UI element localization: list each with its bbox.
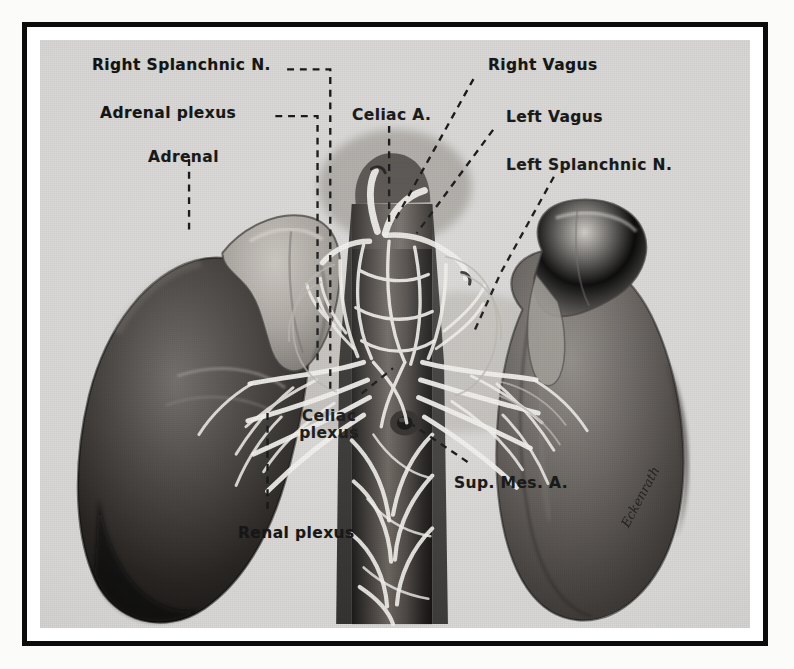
label-left-vagus: Left Vagus — [506, 108, 603, 126]
label-adrenal: Adrenal — [148, 148, 219, 166]
anatomy-artwork: Eckenrath — [40, 40, 750, 628]
label-left-splanchnic-n: Left Splanchnic N. — [506, 156, 672, 174]
plate-mat: Eckenrath — [32, 32, 758, 636]
illustration-art-area: Eckenrath — [40, 40, 750, 628]
label-right-vagus: Right Vagus — [488, 56, 598, 74]
label-celiac-a: Celiac A. — [352, 106, 431, 124]
label-celiac-plexus-line2: plexus — [299, 424, 359, 442]
label-renal-plexus: Renal plexus — [238, 524, 355, 542]
label-sup-mes-a: Sup. Mes. A. — [454, 474, 568, 492]
label-adrenal-plexus: Adrenal plexus — [100, 104, 236, 122]
label-right-splanchnic-n: Right Splanchnic N. — [92, 56, 271, 74]
illustration-plate: Eckenrath — [0, 0, 794, 669]
label-celiac-plexus-line1: Celiac — [302, 407, 357, 425]
label-celiac-plexus: Celiac plexus — [286, 408, 372, 441]
plate-frame: Eckenrath — [22, 22, 768, 646]
